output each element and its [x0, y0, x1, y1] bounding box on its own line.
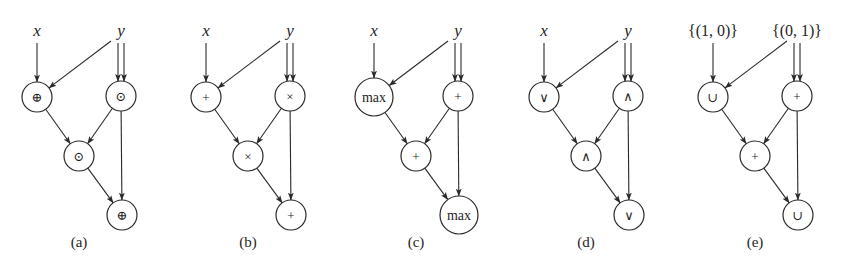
input-label-in1: x [539, 21, 548, 40]
diagram-panels: xy⊕⊙⊙⊕(a)xy+××+(b)xymax++max(c)xy∨∧∧∨(d)… [22, 21, 822, 252]
edge-n2-to-n3 [425, 108, 450, 143]
panel-caption: (b) [239, 234, 257, 251]
operator-symbol: ∧ [581, 149, 591, 164]
operator-symbol: + [454, 89, 461, 104]
operator-symbol: ⊕ [117, 208, 128, 223]
computation-graph-figure: xy⊕⊙⊙⊕(a)xy+××+(b)xymax++max(c)xy∨∧∧∨(d)… [0, 0, 848, 268]
op-node-n1: ∨ [529, 82, 559, 112]
op-node-n1: max [355, 78, 393, 116]
operator-symbol: + [412, 149, 419, 164]
operator-symbol: + [202, 90, 209, 105]
input-label-in2: {(0, 1)} [772, 22, 822, 40]
edge-n1-to-n3 [215, 109, 240, 144]
operator-symbol: + [287, 208, 294, 223]
op-node-n1: ⊕ [22, 82, 52, 112]
edge-n1-to-n3 [722, 109, 747, 144]
panel-caption: (e) [747, 234, 764, 251]
op-node-n1: + [191, 82, 221, 112]
op-node-n3: + [740, 141, 770, 171]
edge-n2-to-n4 [628, 111, 629, 200]
input-label-in1: x [32, 21, 41, 40]
op-node-n4: max [440, 196, 478, 234]
op-node-n4: + [276, 200, 306, 230]
edge-in2-to-n1 [725, 41, 787, 88]
edges [37, 41, 124, 203]
op-node-n2: × [275, 81, 305, 111]
panel-caption: (a) [71, 234, 88, 251]
edge-n2-to-n4 [290, 111, 291, 200]
input-label-in2: y [452, 21, 462, 40]
edge-in2-to-n1 [389, 41, 448, 86]
diagram-panel-e: {(1, 0)}{(0, 1)}∪++∪(e) [688, 22, 822, 252]
operator-symbol: × [244, 149, 251, 164]
edge-in2-to-n1 [556, 41, 618, 88]
edge-n1-to-n3 [385, 113, 407, 144]
operator-symbol: ∨ [539, 90, 549, 105]
diagram-panel-d: xy∨∧∧∨(d) [529, 21, 644, 252]
diagram-panel-c: xymax++max(c) [355, 21, 478, 252]
edge-n2-to-n3 [764, 108, 789, 143]
operator-symbol: + [751, 149, 758, 164]
edge-n2-to-n3 [257, 108, 282, 143]
op-node-n3: ∧ [571, 141, 601, 171]
op-node-n2: + [782, 81, 812, 111]
edge-in2-to-n1 [49, 41, 111, 88]
operator-symbol: ∪ [793, 208, 804, 223]
operator-symbol: max [362, 90, 386, 105]
operator-symbol: ⊙ [116, 89, 127, 104]
panel-caption: (c) [408, 234, 425, 251]
input-label-in2: y [284, 21, 294, 40]
edge-n3-to-n4 [257, 168, 282, 203]
edges [713, 41, 800, 203]
edge-n3-to-n4 [764, 168, 789, 203]
operator-symbol: ∪ [708, 90, 719, 105]
edge-n3-to-n4 [595, 168, 620, 203]
input-label-in1: {(1, 0)} [688, 22, 738, 40]
op-node-n3: + [401, 141, 431, 171]
operator-symbol: ∨ [624, 208, 634, 223]
edge-n2-to-n4 [797, 111, 798, 200]
edges [374, 41, 461, 200]
edge-in2-to-n1 [218, 41, 280, 88]
edges [544, 41, 631, 203]
edge-n3-to-n4 [425, 168, 448, 200]
op-node-n4: ∨ [614, 200, 644, 230]
op-node-n2: ∧ [613, 81, 643, 111]
input-label-in2: y [622, 21, 632, 40]
operator-symbol: × [286, 89, 293, 104]
op-node-n4: ⊕ [107, 200, 137, 230]
operator-symbol: ∧ [623, 89, 633, 104]
edge-n2-to-n3 [595, 108, 620, 143]
edge-n2-to-n4 [121, 111, 122, 200]
op-node-n2: + [443, 81, 473, 111]
input-label-in1: x [201, 21, 210, 40]
op-node-n3: ⊙ [64, 141, 94, 171]
op-node-n3: × [233, 141, 263, 171]
panel-caption: (d) [577, 234, 595, 251]
operator-symbol: ⊕ [32, 90, 43, 105]
edge-n2-to-n3 [88, 108, 113, 143]
input-label-in2: y [115, 21, 125, 40]
op-node-n1: ∪ [698, 82, 728, 112]
edge-n1-to-n3 [46, 109, 71, 144]
operator-symbol: ⊙ [74, 149, 85, 164]
diagram-panel-b: xy+××+(b) [191, 21, 306, 252]
edge-n1-to-n3 [553, 109, 578, 144]
diagram-panel-a: xy⊕⊙⊙⊕(a) [22, 21, 137, 252]
input-label-in1: x [369, 21, 378, 40]
operator-symbol: + [793, 89, 800, 104]
op-node-n2: ⊙ [106, 81, 136, 111]
edges [206, 41, 293, 203]
edge-n3-to-n4 [88, 168, 113, 203]
edge-n2-to-n4 [458, 111, 459, 196]
op-node-n4: ∪ [783, 200, 813, 230]
operator-symbol: max [447, 208, 471, 223]
